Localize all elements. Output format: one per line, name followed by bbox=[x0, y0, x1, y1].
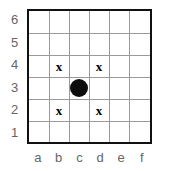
square-d2[interactable]: x bbox=[89, 99, 109, 121]
file-label-c: c bbox=[69, 149, 90, 167]
gridline-horizontal-5 bbox=[29, 121, 150, 122]
gridline-horizontal-3 bbox=[29, 77, 150, 78]
square-d4[interactable]: x bbox=[89, 55, 109, 77]
x-mark-icon: x bbox=[56, 104, 63, 117]
rank-label-2: 2 bbox=[6, 99, 23, 122]
file-label-a: a bbox=[27, 149, 48, 167]
file-label-f: f bbox=[131, 149, 152, 167]
x-mark-icon: x bbox=[96, 104, 103, 117]
file-label-d: d bbox=[90, 149, 111, 167]
chess-diagram: 6 5 4 3 2 1 a b c d e f x bbox=[0, 0, 170, 171]
gridline-horizontal-1 bbox=[29, 33, 150, 34]
square-b2[interactable]: x bbox=[49, 99, 69, 121]
black-dot-piece-icon bbox=[70, 79, 88, 97]
square-b4[interactable]: x bbox=[49, 55, 69, 77]
x-mark-icon: x bbox=[96, 60, 103, 73]
rank-label-5: 5 bbox=[6, 32, 23, 55]
rank-label-3: 3 bbox=[6, 77, 23, 100]
rank-label-6: 6 bbox=[6, 9, 23, 32]
file-label-b: b bbox=[48, 149, 69, 167]
board-grid: x x x x bbox=[27, 9, 152, 144]
grid-lines: x x x x bbox=[29, 11, 150, 142]
x-mark-icon: x bbox=[56, 60, 63, 73]
square-c3[interactable] bbox=[69, 77, 89, 99]
rank-label-1: 1 bbox=[6, 122, 23, 145]
rank-label-4: 4 bbox=[6, 54, 23, 77]
file-label-e: e bbox=[111, 149, 132, 167]
